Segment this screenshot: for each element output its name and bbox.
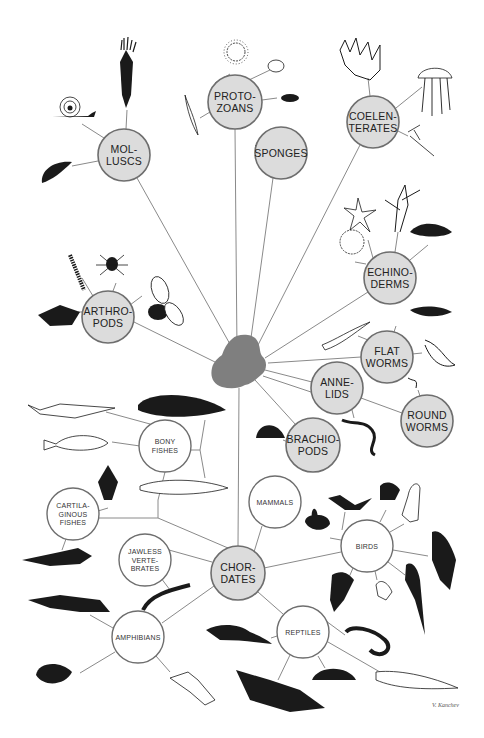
node-label: ROUND	[407, 409, 447, 421]
toad-icon	[36, 664, 72, 683]
ray-icon	[98, 465, 118, 500]
edge-coelenterates-coral	[368, 78, 370, 96]
edge-amphibians-toad	[80, 652, 115, 673]
stork-icon	[402, 484, 420, 522]
jellyfish-icon	[418, 68, 452, 116]
node-label: BRACHIO-	[287, 433, 340, 445]
edge-reptiles-newt	[271, 636, 277, 638]
node-label: SPONGES	[254, 147, 307, 159]
node-echinoderms: ECHINO-DERMS	[364, 252, 416, 304]
edge-protozoans-amoeba	[249, 70, 270, 80]
node-label: LUSCS	[106, 155, 142, 167]
tortoise-icon	[312, 669, 356, 680]
finch-icon	[376, 581, 392, 600]
node-flatworms: FLATWORMS	[361, 331, 413, 383]
node-cartilaginous-fishes: CARTILA-GINOUSFISHES	[47, 488, 99, 540]
node-jawless-vertebrates: JAWLESSVERTE-BRATES	[119, 534, 171, 586]
node-label: COELEN-	[349, 110, 397, 122]
nematode-icon	[408, 378, 417, 388]
node-label: PROTO-	[214, 90, 256, 102]
node-label: AMPHIBIANS	[115, 634, 160, 641]
node-label: ARTHRO-	[83, 305, 132, 317]
edge-chordates-mammals	[254, 526, 262, 552]
edge-flatworms-planaria	[358, 336, 368, 340]
trout-icon	[44, 436, 108, 451]
edge-amphibians-salamander	[90, 615, 113, 628]
edge-center-sponges	[250, 178, 273, 345]
edge-molluscs-mussel	[72, 161, 98, 166]
edge-center-annelids-2	[263, 376, 311, 392]
node-amphibians: AMPHIBIANS	[112, 611, 164, 663]
edge-coelenterates-jellyfish	[396, 87, 422, 108]
node-label: ECHINO-	[367, 266, 413, 278]
spider-icon	[96, 255, 128, 275]
node-sponges: SPONGES	[254, 127, 307, 179]
node-label: WORMS	[406, 421, 448, 433]
edge-amphibians-frog	[156, 656, 170, 672]
tapeworm-icon	[425, 340, 455, 366]
edge-molluscs-snail	[82, 124, 104, 138]
newt-icon	[206, 625, 272, 644]
edge-echinoderms-starfish	[368, 240, 373, 258]
edge-chordates-fish-junction	[158, 518, 228, 548]
euglena-icon	[185, 95, 198, 135]
edge-arthropods-centipede	[82, 278, 93, 296]
edge-bony-coelacanth	[200, 420, 205, 450]
edge-arthropods-fly	[130, 296, 142, 305]
edge-reptiles-lizard	[328, 642, 380, 672]
edge-chordates-jawless	[169, 550, 212, 562]
node-protozoans: PROTO-ZOANS	[208, 75, 262, 129]
node-label: VERTE-	[132, 557, 159, 564]
edge-arthropods-spider	[113, 283, 116, 291]
edge-birds-bird1	[342, 512, 345, 530]
crinoid-icon	[385, 185, 420, 232]
edge-birds-vulture	[393, 550, 428, 556]
edge-birds-duck	[380, 510, 386, 522]
node-label: JAWLESS	[128, 548, 162, 555]
phylogeny-diagram: MOL-LUSCSPROTO-ZOANSSPONGESCOELEN-TERATE…	[0, 0, 484, 738]
node-label: REPTILES	[285, 629, 321, 636]
snail-icon	[52, 97, 96, 117]
node-label: ANNE-	[320, 376, 354, 388]
node-label: FLAT	[374, 345, 400, 357]
node-label: LIDS	[325, 388, 349, 400]
hornbill-icon	[330, 572, 354, 612]
artist-signature: V. Kanchev	[432, 702, 459, 708]
edge-center-brachiopods	[255, 380, 296, 425]
crayfish-icon	[38, 305, 80, 326]
pheasant-icon	[328, 495, 372, 510]
edge-birds-finch	[375, 571, 377, 580]
edge-center-arthropods	[134, 322, 215, 362]
edge-chordates-reptiles	[258, 592, 283, 614]
edge-birds-parrot	[388, 562, 405, 575]
edge-birds-ostrich	[330, 538, 341, 540]
node-coelenterates: COELEN-TERATES	[347, 96, 399, 148]
edge-protozoans-euglena	[200, 112, 210, 118]
node-bony-fishes: BONYFISHES	[139, 420, 191, 472]
edge-center-flatworms	[268, 357, 361, 363]
edge-annelids-roundworms	[361, 398, 402, 413]
node-brachiopods: BRACHIO-PODS	[286, 418, 340, 472]
duck-icon	[380, 483, 400, 500]
edge-birds-hornbill	[350, 568, 353, 575]
edge-center-chordates	[238, 388, 239, 546]
node-annelids: ANNE-LIDS	[311, 362, 363, 414]
node-label: MAMMALS	[257, 499, 294, 506]
edge-chordates-birds	[264, 552, 341, 568]
node-chordates: CHOR-DATES	[211, 546, 265, 600]
edge-flatworms-top	[394, 326, 396, 332]
edge-protozoans-paramecium	[262, 98, 277, 100]
edge-echinoderms-cucumber	[410, 245, 428, 260]
sea-urchin-icon	[340, 230, 364, 254]
edge-bony-trout	[112, 442, 140, 446]
edge-center-protozoans	[235, 129, 237, 350]
edge-molluscs-squid	[126, 110, 127, 129]
edge-annelids-earthworm	[352, 410, 354, 418]
edge-center-molluscs	[137, 178, 240, 362]
mussel-icon	[42, 162, 72, 183]
node-molluscs: MOL-LUSCS	[98, 129, 150, 181]
edge-birds-stork	[390, 524, 404, 532]
edge-coelenterates-hydra	[398, 131, 408, 136]
node-label: FISHES	[152, 447, 179, 454]
amoeba-icon	[268, 60, 284, 72]
